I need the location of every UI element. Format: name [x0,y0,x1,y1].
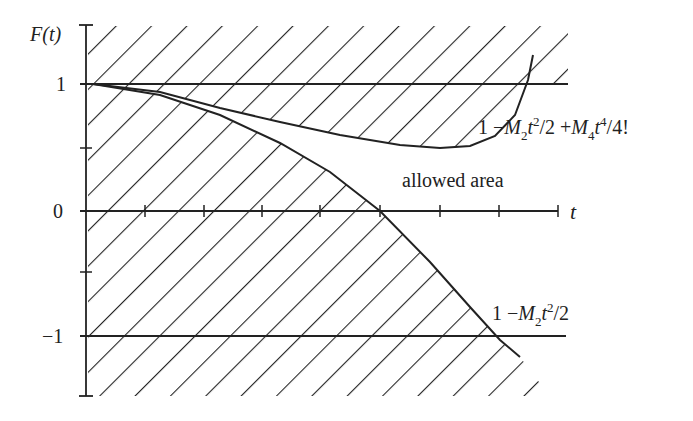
y-axis-label: F(t) [30,24,61,44]
diagram-canvas [0,0,693,421]
allowed-area-label: allowed area [402,170,504,190]
y-tick-label-0: 0 [53,201,63,221]
curve-lower-label: 1 −M2t2/2 [492,301,569,328]
curve-upper-label: 1 −M2t2/2 +M4t4/4! [478,115,629,142]
y-tick-label-minus1: −1 [42,326,63,346]
y-tick-label-1: 1 [56,74,66,94]
x-axis-label: t [570,201,576,223]
